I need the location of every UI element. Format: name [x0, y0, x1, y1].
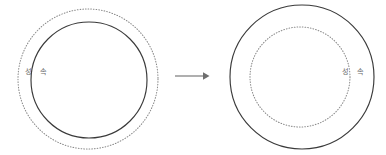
transition-arrow-group [175, 72, 210, 80]
right-label-sok: 속 [357, 67, 364, 76]
left-outer-dotted-circle [18, 9, 158, 149]
arrow-head-icon [203, 72, 210, 80]
left-label-seong: 성 [25, 67, 32, 76]
left-label-sok: 속 [40, 67, 47, 76]
right-label-seong: 성 [342, 67, 349, 76]
diagram-canvas: 성 속 성 속 [0, 0, 386, 155]
left-diagram-group: 성 속 [18, 9, 158, 149]
right-diagram-group: 성 속 [230, 5, 374, 149]
left-inner-solid-circle [31, 22, 147, 138]
right-inner-dotted-circle [250, 27, 350, 127]
diagram-figure: 성 속 성 속 [0, 0, 386, 155]
